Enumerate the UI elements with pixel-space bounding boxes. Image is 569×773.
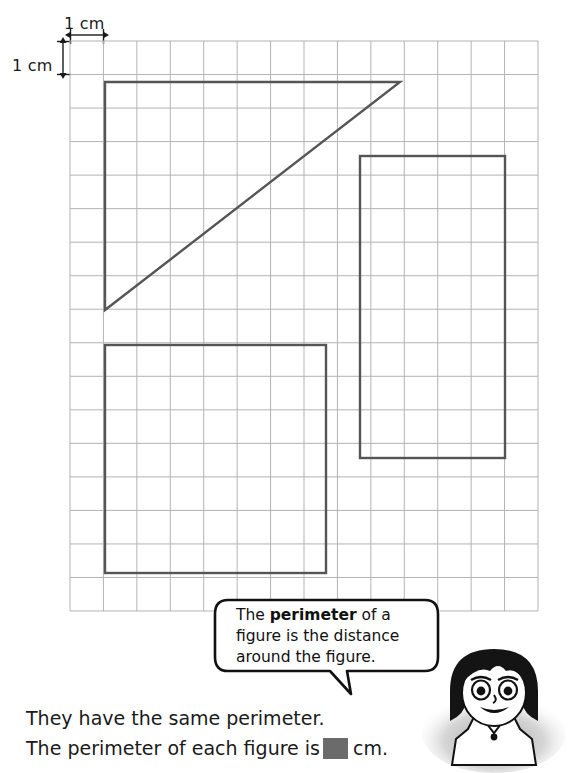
figure-right-rectangle	[360, 156, 505, 458]
speech-bubble-text: The perimeter of a figure is the distanc…	[236, 605, 424, 668]
speech-bubble: The perimeter of a figure is the distanc…	[212, 597, 441, 670]
button	[491, 734, 498, 741]
answer-line2-after: cm.	[353, 737, 388, 759]
bubble-line2: figure is the distance	[236, 627, 399, 645]
answer-line-1: They have the same perimeter.	[26, 703, 446, 733]
bubble-line3: around the figure.	[236, 648, 376, 666]
answer-block: They have the same perimeter. The perime…	[26, 703, 446, 763]
figure-bottom-left-square	[105, 345, 326, 573]
bubble-line1-before: The	[236, 606, 270, 624]
worksheet-page: 1 cm 1 cm T	[0, 0, 569, 773]
answer-line-2: The perimeter of each figure iscm.	[26, 733, 446, 763]
bubble-keyword: perimeter	[270, 606, 357, 624]
answer-line2-before: The perimeter of each figure is	[26, 737, 320, 759]
answer-blank-box[interactable]	[323, 738, 348, 759]
figure-triangle	[105, 82, 400, 310]
bubble-line1-after: of a	[357, 606, 391, 624]
